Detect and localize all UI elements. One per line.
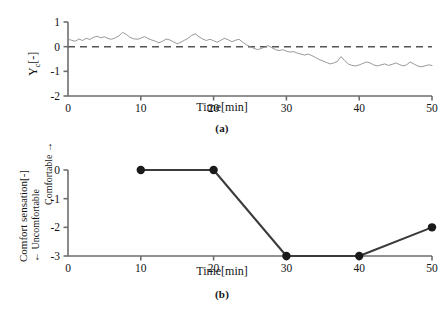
y-tick-label: -1 [50, 65, 60, 77]
panel-a-y-axis-symbol: Y [26, 67, 40, 76]
data-point-marker [428, 223, 436, 231]
panel-a-y-axis-unit: [-] [26, 52, 40, 64]
panel-b-y-axis-low-label: ← Uncomfortable [30, 189, 41, 262]
panel-b-y-axis-high-label: Comfortable → [43, 142, 54, 205]
panel-b-x-axis-title: Time[min] [0, 264, 444, 279]
data-point-marker [209, 166, 217, 174]
data-point-marker [282, 252, 290, 260]
data-series-line [141, 170, 432, 256]
panel-a-caption: (a) [0, 122, 444, 134]
data-point-marker [355, 252, 363, 260]
panel-b-y-axis-title: Comfort sensation[-] [17, 170, 29, 262]
panel-a-x-axis-title: Time[min] [0, 100, 444, 115]
panel-a-y-axis-subscript: c [33, 64, 42, 68]
y-tick-label: 1 [54, 16, 60, 28]
panel-b-caption: (b) [0, 288, 444, 300]
data-point-marker [137, 166, 145, 174]
axis-spine [68, 22, 432, 96]
panel-a: 10-1-201020304050 Yc[-] Time[min] (a) [0, 0, 444, 150]
y-tick-label: 0 [54, 41, 60, 53]
panel-a-y-axis-title: Yc[-] [26, 52, 42, 76]
y-tick-label: -2 [50, 221, 60, 233]
y-tick-label: 0 [54, 164, 60, 176]
figure-container: 10-1-201020304050 Yc[-] Time[min] (a) 0-… [0, 0, 444, 317]
y-tick-label: -3 [50, 250, 60, 262]
data-series-line [68, 32, 432, 67]
